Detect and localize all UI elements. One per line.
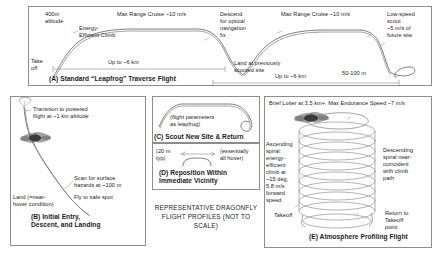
panel-c-scout-new-site-and-return: (flight parameters as leapfrog) (C) Scou… <box>152 96 260 143</box>
panel-a-standard-leapfrog-traverse: 400m altitude Take off Energy- Efficient… <box>28 6 432 86</box>
label-flight-parameters-as-leapfrog: (flight parameters as leapfrog) <box>170 114 214 128</box>
trajectory-scout-loop <box>391 67 415 77</box>
label-transition-to-powered-flight: Transition to powered flight at ~1 km al… <box>33 106 89 120</box>
panel-d-reposition-within-immediate-vicinity: (20 m typ) (essentially all hover) (D) R… <box>152 143 260 190</box>
label-takeoff: Take off <box>31 58 43 72</box>
dimension-reposition-distance <box>181 152 215 156</box>
panel-d-title: (D) Reposition Within Immediate Vicinity <box>159 169 227 186</box>
trajectory-ascending-spiral <box>299 122 375 220</box>
label-scan-for-surface-hazards: Scan for surface hazards at ~100 m <box>74 175 121 189</box>
panel-b-initial-entry-descent-landing: Transition to powered flight at ~1 km al… <box>10 96 146 246</box>
label-hop-distance: 50-100 m <box>342 70 366 77</box>
label-essentially-all-hover: (essentially all hover) <box>220 148 249 162</box>
leader-scan <box>65 181 73 189</box>
parachute-icon <box>19 97 31 107</box>
label-brief-loiter: Brief Loiter at 3.5 km+, Max Endurance S… <box>269 100 405 107</box>
label-range-2: Up to ~6 km <box>275 73 306 80</box>
panel-c-title: (C) Scout New Site & Return <box>154 133 244 141</box>
figure-caption: REPRESENTATIVE DRAGONFLY FLIGHT PROFILES… <box>150 203 262 230</box>
leader-transition <box>25 110 31 111</box>
spiral-column-edges <box>299 131 375 211</box>
panel-b-title: (B) Initial Entry, Descent, and Landing <box>31 213 101 230</box>
label-max-range-cruise-2: Max Range Cruise ~10 m/s <box>281 11 350 18</box>
panel-e-title: (E) Atmosphere Profiling Flight <box>309 233 408 241</box>
dragonfly-lander-icon <box>19 130 52 144</box>
label-takeoff-point: Takeoff <box>274 212 292 219</box>
spiral-base-ellipse <box>303 214 371 228</box>
label-land-near-hover: Land (=near- hover condition) <box>13 194 54 208</box>
panel-a-title: (A) Standard “Leapfrog” Traverse Flight <box>49 75 176 83</box>
label-descending-spiral: Descending spiral near- coincident with … <box>383 147 413 182</box>
dimension-range-1 <box>53 66 225 72</box>
trajectory-hover-hop <box>183 158 211 166</box>
label-descend-for-optical-nav: Descend for optical navigation fix <box>220 11 246 39</box>
label-ascending-spiral: Ascending spiral: energy- efficient clim… <box>266 141 293 204</box>
label-max-range-cruise-1: Max Range Cruise ~10 m/s <box>117 11 186 18</box>
dimension-range-2 <box>213 80 399 86</box>
label-low-speed-scout: Low-speed scout ~5 m/s of future site <box>387 11 415 39</box>
panel-e-atmosphere-profiling-flight: Brief Loiter at 3.5 km+, Max Endurance S… <box>264 96 432 248</box>
label-land-at-scouted-site: Land at previously scouted site <box>234 60 280 74</box>
label-fly-to-safe-spot: Fly to safe spot <box>74 194 113 201</box>
label-range-1: Up to ~6 km <box>108 59 139 66</box>
label-altitude: 400m altitude <box>45 11 63 25</box>
label-reposition-distance: (20 m typ) <box>156 148 171 162</box>
label-return-to-takeoff: Return to Takeoff point <box>385 210 408 231</box>
label-energy-efficient-climb: Energy- Efficient Climb <box>79 25 115 39</box>
